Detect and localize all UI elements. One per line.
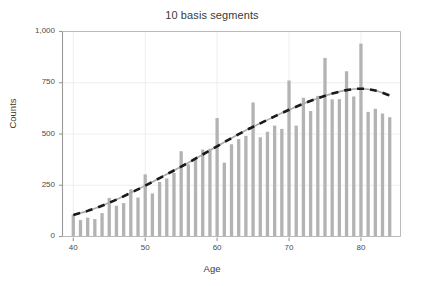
bar xyxy=(122,203,125,236)
bar xyxy=(194,158,197,236)
bar xyxy=(158,182,161,237)
bar xyxy=(187,164,190,236)
bar xyxy=(338,99,341,236)
bar xyxy=(201,150,204,237)
bar xyxy=(295,126,298,237)
bar xyxy=(273,126,276,237)
bar xyxy=(223,163,226,237)
plot-area xyxy=(0,0,424,286)
bar xyxy=(86,218,89,237)
bar xyxy=(72,215,75,237)
bar xyxy=(374,109,377,237)
bar xyxy=(266,132,269,237)
bar xyxy=(302,98,305,237)
bar xyxy=(244,136,247,237)
bar xyxy=(100,213,103,236)
bar xyxy=(237,139,240,236)
bar xyxy=(287,81,290,237)
bar xyxy=(230,144,233,236)
bar xyxy=(316,96,319,237)
bar xyxy=(323,58,326,237)
bar xyxy=(359,44,362,237)
bar xyxy=(280,129,283,237)
chart-figure: 10 basis segments Counts Age 02505007501… xyxy=(0,0,424,286)
bar xyxy=(79,220,82,236)
bar xyxy=(172,173,175,237)
bar xyxy=(136,198,139,237)
bar xyxy=(208,149,211,237)
bar xyxy=(151,193,154,236)
bar xyxy=(331,99,334,236)
bar xyxy=(93,219,96,236)
bar xyxy=(259,137,262,236)
bar xyxy=(366,112,369,237)
bar xyxy=(345,71,348,236)
bar xyxy=(215,118,218,236)
bar xyxy=(388,117,391,236)
bar xyxy=(115,206,118,237)
bar xyxy=(381,114,384,237)
bar xyxy=(165,178,168,236)
bar xyxy=(129,189,132,236)
bar-series xyxy=(72,44,392,237)
bar xyxy=(251,102,254,236)
bar xyxy=(352,96,355,236)
bar xyxy=(180,151,183,236)
bar xyxy=(309,111,312,236)
